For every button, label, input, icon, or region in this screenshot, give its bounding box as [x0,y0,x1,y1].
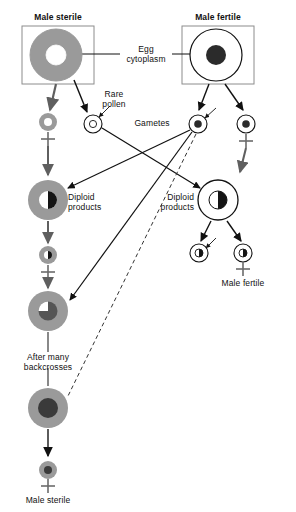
cell-gamete-sterile-egg [39,113,57,131]
cell-male-fertile-parent [190,29,242,81]
label-male-fertile-bottom: Male fertile [210,278,276,288]
plus-fertile-out [236,262,250,276]
page-title-male-fertile: Male fertile [182,12,254,22]
arrow-fertile-egg-to-diploid [240,148,246,172]
page-title-male-sterile: Male sterile [22,12,94,22]
label-egg-cytoplasm: Egg cytoplasm [118,44,174,64]
cell-male-sterile-line [28,388,68,428]
cross-rare-pollen-to-right-diploid [102,128,200,188]
cell-backcross [28,291,68,331]
label-gametes: Gametes [128,118,176,128]
label-diploid-products-left: Diploid products [68,192,118,212]
cell-gamete-fertile-out-right [234,244,252,262]
cell-diploid-right [198,180,238,220]
gamete-pointer-right-out [206,238,216,248]
label-rare-pollen: Rare pollen [90,89,138,109]
cross-fertile-pollen-to-backcross [70,132,192,300]
plus-final [41,479,55,493]
plus-fertile-egg [239,134,253,148]
arrow-sterile-to-rare-pollen [74,80,87,112]
arrow-fertile-to-pollen [199,84,209,110]
arrow-fertile-to-egg [225,84,243,110]
cell-diploid-left [28,180,68,220]
cell-gamete-fertile-out-left [190,244,208,262]
label-after-many-backcrosses: After many backcrosses [14,352,82,372]
arrow-sterile-to-egg [50,84,56,110]
cell-gamete-rare-pollen [84,115,102,133]
plus-backcross [41,265,55,279]
dashed-recurrent-pollen-line [68,134,196,396]
arrow-right-diploid-to-gamete-a [201,221,211,241]
cell-male-sterile-parent [30,29,82,81]
plus-sterile-egg [41,132,55,146]
cell-gamete-backcross-1 [39,246,57,264]
cell-gamete-fertile-pollen [189,115,207,133]
arrow-right-diploid-to-gamete-b [227,221,241,241]
label-male-sterile-bottom: Male sterile [14,495,82,505]
diagram-canvas: Male sterile Male fertile Egg cytoplasm … [0,0,296,512]
cell-male-sterile-final-gamete [39,461,57,479]
cell-gamete-fertile-egg [237,115,255,133]
cms-breeding-diagram [0,0,296,512]
label-diploid-products-right: Diploid products [144,192,194,212]
gamete-pointer-fertile [205,108,216,118]
